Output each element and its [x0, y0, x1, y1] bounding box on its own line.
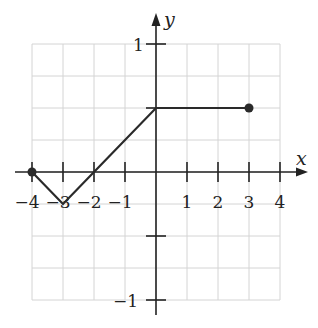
axes: [15, 13, 308, 315]
y-axis-label: y: [163, 8, 175, 30]
x-tick-label: −3: [45, 192, 70, 212]
x-tick-label: 1: [182, 192, 193, 212]
y-tick-label-neg1: −1: [113, 291, 138, 311]
y-tick-label-1: 1: [133, 35, 144, 55]
x-tick-label: −2: [76, 192, 101, 212]
x-tick-label: −4: [14, 192, 39, 212]
x-tick-label: 2: [213, 192, 224, 212]
x-tick-label: 3: [244, 192, 255, 212]
closed-endpoint-dot: [28, 168, 37, 177]
y-axis-arrow-icon: [152, 13, 161, 26]
x-axis-label: x: [296, 147, 307, 169]
x-tick-label: 4: [275, 192, 286, 212]
function-line: [32, 108, 249, 204]
function-graph: −4−3−2−11234 x y 1 −1: [0, 0, 318, 328]
x-tick-label: −1: [107, 192, 132, 212]
closed-endpoint-dot: [245, 104, 254, 113]
